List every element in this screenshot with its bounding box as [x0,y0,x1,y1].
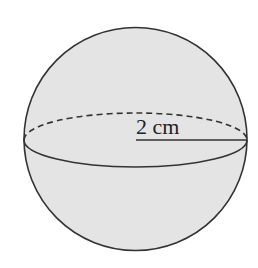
radius-label: 2 cm [136,114,179,139]
sphere-diagram: 2 cm [0,0,258,268]
sphere-outline [24,28,247,251]
